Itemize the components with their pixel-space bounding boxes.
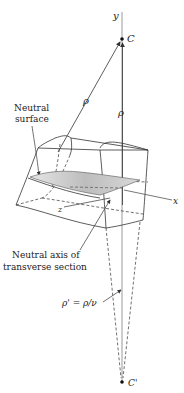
neutral-surface-leader [32,126,39,175]
beam-bending-diagram: y C ρ ρ Neutral surface x z Neutral axis… [0,0,184,393]
neutral-axis-label-1: Neutral axis of [12,250,80,260]
rho-slanted-arrow [58,42,120,152]
neutral-surface-label-1: Neutral [14,103,49,113]
center-point-c-prime [120,380,124,384]
center-label: C [127,33,135,44]
y-axis-label: y [112,10,119,21]
center-prime-label: C' [128,378,137,388]
x-axis-line [124,190,172,200]
rho-prime-leader [103,290,121,302]
x-axis-label: x [173,196,178,206]
rho-prime-equation: ρ' = ρ/ν [61,298,97,308]
center-point-c [120,37,124,41]
z-axis-label: z [57,205,63,214]
z-axis-line [64,198,110,207]
rho-vertical-label: ρ [117,107,124,118]
neutral-axis-label-2: transverse section [3,262,87,272]
neutral-surface-shaded [30,171,140,195]
rho-slanted-label: ρ [82,95,89,106]
neutral-surface-label-2: surface [15,114,49,124]
